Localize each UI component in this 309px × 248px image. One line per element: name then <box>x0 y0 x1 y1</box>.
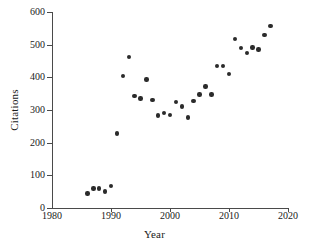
data-point <box>262 33 266 37</box>
data-point <box>209 92 213 96</box>
plot-area <box>0 0 309 248</box>
data-point <box>197 92 201 96</box>
scatter-chart: Citations 0100200300400500600 1980199020… <box>0 0 309 248</box>
data-point <box>250 45 254 49</box>
data-point <box>174 100 178 104</box>
data-point <box>268 24 272 28</box>
data-point <box>144 77 148 81</box>
data-point <box>239 46 243 50</box>
data-point <box>215 64 219 68</box>
data-point <box>103 189 107 193</box>
data-point <box>180 104 184 108</box>
data-point <box>227 72 231 76</box>
data-point <box>203 84 207 88</box>
data-point <box>168 113 172 117</box>
data-point <box>221 64 225 68</box>
data-point <box>162 111 166 115</box>
data-point <box>97 186 101 190</box>
data-point <box>233 37 237 41</box>
data-point <box>191 99 195 103</box>
data-point <box>132 94 136 98</box>
data-point <box>91 186 95 190</box>
data-point <box>115 131 119 135</box>
data-point <box>245 51 249 55</box>
data-point <box>85 191 89 195</box>
data-point <box>156 113 160 117</box>
data-point <box>256 47 260 51</box>
x-axis-label: Year <box>0 228 309 240</box>
data-point <box>186 115 190 119</box>
data-point <box>109 184 113 188</box>
data-point <box>150 98 154 102</box>
data-point <box>127 55 131 59</box>
data-point <box>121 74 125 78</box>
data-point <box>138 96 142 100</box>
